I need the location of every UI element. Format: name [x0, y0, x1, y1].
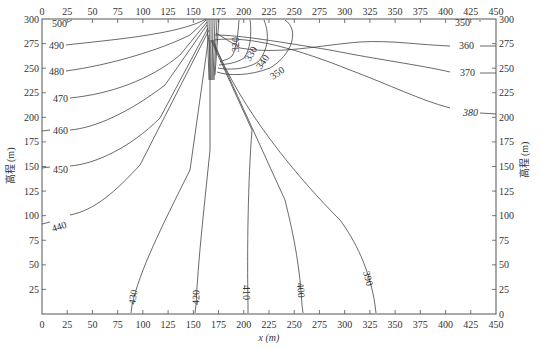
contour-label-370: 370 — [460, 67, 475, 78]
x-tick-label-bottom: 450 — [489, 319, 504, 330]
contour-500 — [68, 20, 72, 22]
y-tick-label-right: 300 — [499, 14, 514, 25]
x-tick-label-top: 300 — [337, 6, 352, 17]
x-tick-label-top: 425 — [463, 6, 478, 17]
y-tick-label-left: 125 — [24, 186, 39, 197]
y-tick-label-right: 50 — [499, 259, 509, 270]
contour-label-410: 410 — [241, 285, 252, 300]
contour-label-450: 450 — [53, 164, 68, 175]
x-tick-label-bottom: 25 — [62, 319, 72, 330]
y-tick-label-right: 200 — [499, 112, 514, 123]
x-tick-label-top: 200 — [236, 6, 251, 17]
contour-label-440: 440 — [50, 219, 68, 234]
y-tick-label-right: 250 — [499, 63, 514, 74]
x-tick-label-top: 150 — [186, 6, 201, 17]
x-tick-label-bottom: 300 — [337, 319, 352, 330]
y-tick-label-left: 225 — [24, 87, 39, 98]
y-tick-label-left: 200 — [24, 112, 39, 123]
y-tick-label-left: 275 — [24, 38, 39, 49]
x-tick-label-top: 325 — [362, 6, 377, 17]
x-tick-label-bottom: 200 — [236, 319, 251, 330]
x-tick-label-top: 375 — [413, 6, 428, 17]
y-tick-label-right: 100 — [499, 210, 514, 221]
contour-400 — [212, 40, 303, 313]
contour-label-400: 400 — [295, 282, 307, 298]
contour-cluster — [207, 19, 219, 80]
contour-label-420: 420 — [190, 290, 202, 305]
x-tick-label-bottom: 150 — [186, 319, 201, 330]
y-tick-label-right: 0 — [499, 309, 504, 320]
y-tick-label-right: 25 — [499, 284, 509, 295]
y-tick-label-right: 75 — [499, 235, 509, 246]
contour-390 — [213, 40, 376, 313]
contour-label-480: 480 — [49, 66, 64, 77]
x-tick-label-top: 175 — [211, 6, 226, 17]
contour-490 — [66, 19, 206, 45]
x-tick-label-top: 50 — [87, 6, 97, 17]
x-tick-label-bottom: 400 — [438, 319, 453, 330]
x-axis-title: x (m) — [258, 332, 280, 344]
x-tick-label-top: 25 — [62, 6, 72, 17]
contour-430 — [131, 35, 209, 313]
x-tick-label-bottom: 100 — [135, 319, 150, 330]
x-axis-bottom: 0255075100125150175200225250275300325350… — [40, 310, 504, 330]
contour-label-320: 320 — [230, 37, 241, 52]
contour-labels: 500 490 480 470 460 450 440 430 420 410 … — [49, 17, 478, 305]
contour-label-390: 390 — [361, 270, 376, 287]
x-tick-label-bottom: 50 — [87, 319, 97, 330]
x-tick-label-bottom: 175 — [211, 319, 226, 330]
y-tick-label-right: 275 — [499, 38, 514, 49]
y-tick-label-right: 175 — [499, 136, 514, 147]
x-tick-label-bottom: 350 — [388, 319, 403, 330]
x-tick-label-top: 275 — [312, 6, 327, 17]
contour-480 — [66, 20, 206, 71]
contour-lines — [42, 19, 496, 313]
x-tick-label-top: 75 — [113, 6, 123, 17]
y-tick-label-left: 50 — [29, 259, 39, 270]
contour-label-350: 350 — [268, 64, 287, 82]
chart-svg: 0255075100125150175200225250275300325350… — [0, 0, 541, 349]
y-tick-label-left: 25 — [29, 284, 39, 295]
x-tick-label-bottom: 250 — [287, 319, 302, 330]
contour-chart: 0255075100125150175200225250275300325350… — [0, 0, 541, 349]
y-tick-label-left: 250 — [24, 63, 39, 74]
contour-460 — [42, 25, 207, 131]
x-tick-label-top: 250 — [287, 6, 302, 17]
y-tick-label-right: 125 — [499, 186, 514, 197]
x-tick-label-top: 350 — [388, 6, 403, 17]
x-tick-label-bottom: 125 — [161, 319, 176, 330]
x-tick-label-bottom: 325 — [362, 319, 377, 330]
y-tick-label-left: 75 — [29, 235, 39, 246]
contour-label-430: 430 — [126, 289, 139, 306]
x-tick-label-top: 125 — [161, 6, 176, 17]
y-tick-label-left: 100 — [24, 210, 39, 221]
x-tick-label-top: 225 — [262, 6, 277, 17]
y-tick-label-left: 150 — [24, 161, 39, 172]
x-tick-label-bottom: 375 — [413, 319, 428, 330]
y-axis-title-right: 高程 (m) — [518, 142, 531, 179]
x-tick-label-top: 0 — [40, 6, 45, 17]
y-tick-label-left: 175 — [24, 136, 39, 147]
contour-label-380: 380 — [462, 107, 478, 118]
y-axis-right: 3002752502252001751501251007550250 — [492, 14, 514, 320]
y-tick-label-left: 300 — [24, 14, 39, 25]
y-axis-title-left: 高程 (m) — [4, 148, 17, 185]
x-tick-label-bottom: 275 — [312, 319, 327, 330]
x-tick-label-bottom: 225 — [262, 319, 277, 330]
y-tick-label-right: 225 — [499, 87, 514, 98]
x-tick-label-bottom: 425 — [463, 319, 478, 330]
contour-470 — [70, 22, 207, 98]
y-tick-label-right: 150 — [499, 161, 514, 172]
contour-410 — [211, 40, 252, 313]
contour-label-360: 360 — [459, 40, 474, 51]
x-tick-label-top: 100 — [135, 6, 150, 17]
contour-label-350-top: 350 — [455, 17, 470, 28]
contour-label-470: 470 — [53, 93, 68, 104]
contour-label-490: 490 — [49, 40, 64, 51]
x-tick-label-bottom: 75 — [113, 319, 123, 330]
contour-label-500: 500 — [52, 18, 67, 29]
contour-label-460: 460 — [53, 125, 68, 136]
x-tick-label-bottom: 0 — [40, 319, 45, 330]
x-tick-label-top: 400 — [438, 6, 453, 17]
y-axis-left: 300275250225200175150125100755025 — [24, 14, 46, 295]
